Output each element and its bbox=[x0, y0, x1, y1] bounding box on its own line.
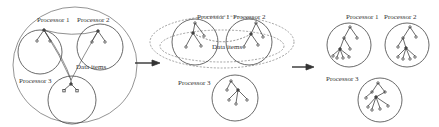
stage2-data-label: Data items bbox=[212, 44, 242, 51]
stage1-processor3-label: Processor 3 bbox=[19, 78, 51, 85]
stage2-processor1-label: Processor 1 bbox=[197, 14, 229, 21]
processor-1-circle bbox=[172, 19, 218, 65]
processor-2-circle bbox=[385, 23, 429, 67]
stage-3 bbox=[327, 23, 429, 122]
tree-p2 bbox=[243, 22, 264, 48]
processor-3-circle bbox=[212, 75, 258, 121]
tree-p2 bbox=[91, 30, 106, 44]
stage-2 bbox=[150, 16, 294, 121]
arrow-2 bbox=[292, 64, 314, 70]
stage2-processor2-label: Processor 2 bbox=[233, 14, 265, 21]
processor-1-circle bbox=[18, 30, 62, 74]
stage1-data-label: Data items bbox=[76, 64, 106, 71]
tree-p3 bbox=[63, 80, 78, 92]
stage1-processor1-label: Processor 1 bbox=[37, 17, 69, 24]
tree-p2 bbox=[397, 26, 417, 60]
tree-p1 bbox=[185, 22, 205, 48]
stage3-processor2-label: Processor 2 bbox=[384, 14, 416, 21]
tree-p3 bbox=[226, 80, 248, 105]
stage1-processor2-label: Processor 2 bbox=[77, 17, 109, 24]
stage-1 bbox=[13, 7, 137, 124]
tree-p1 bbox=[36, 29, 51, 43]
stage3-processor1-label: Processor 1 bbox=[346, 14, 378, 21]
processor-2-circle bbox=[226, 19, 272, 65]
tree-p1 bbox=[332, 26, 358, 59]
stage2-processor3-label: Processor 3 bbox=[178, 80, 210, 87]
diagram: Processor 1 Processor 2 Processor 3 Data… bbox=[0, 0, 439, 127]
shared-data-links bbox=[44, 30, 98, 80]
arrow-1 bbox=[135, 60, 160, 66]
tree-p3 bbox=[365, 82, 389, 111]
shared-boundary-circle bbox=[13, 7, 137, 123]
stage3-processor3-label: Processor 3 bbox=[326, 76, 358, 83]
